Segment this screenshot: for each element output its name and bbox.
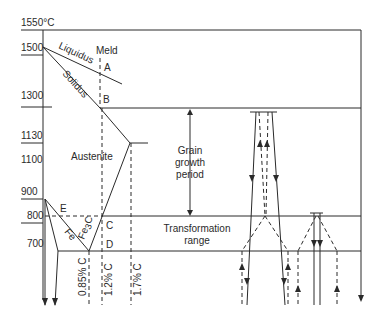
grain-growth-line3: period — [176, 169, 204, 180]
arrow-up-icon — [264, 140, 270, 147]
transformation-line2: range — [184, 235, 210, 246]
cycle1-down-right — [272, 112, 285, 305]
arrow-up-icon — [285, 263, 291, 270]
arrow-up-icon — [187, 109, 193, 115]
point-b-label: B — [103, 94, 110, 105]
arrow-down-icon — [187, 210, 193, 216]
arrow-down-icon — [358, 295, 364, 302]
cycle1-split-left — [242, 216, 265, 251]
transformation-line1: Transformation — [164, 223, 231, 234]
y-axis-top-label: 1550°C — [21, 17, 54, 28]
cycle2-split-left — [298, 216, 316, 251]
arrow-down-icon — [244, 278, 250, 285]
c085-label: 0.85% C — [77, 258, 88, 296]
grain-growth-line2: growth — [175, 157, 205, 168]
arrow-down-icon — [42, 298, 48, 306]
cycle1-up-left — [259, 112, 265, 216]
cooling-line-2 — [55, 251, 58, 305]
tick-label-1130: 1130 — [21, 130, 43, 141]
arrow-up-icon — [257, 140, 263, 147]
c17-label: 1.7% C — [132, 263, 143, 296]
tick-label-700: 700 — [27, 238, 44, 249]
arrow-down-icon — [249, 175, 255, 182]
cycle2-split-right — [318, 216, 337, 251]
point-c-label: C — [106, 220, 113, 231]
tick-label-1100: 1100 — [21, 154, 43, 165]
solidus-label: Solidus — [61, 68, 91, 100]
liquidus-label: Liquidus — [57, 40, 95, 66]
grain-growth-line1: Grain — [178, 145, 202, 156]
arrow-down-icon — [317, 240, 323, 247]
iron-carbon-diagram: 1550°C 1500 1300 1130 1100 900 800 700 L… — [0, 0, 383, 317]
fe3c-label: Fe3C — [76, 214, 97, 241]
arrow-down-icon — [281, 278, 287, 285]
tick-label-900: 900 — [21, 186, 38, 197]
cycle1-split-right — [265, 216, 288, 251]
point-e-label: E — [60, 203, 67, 214]
cycle1-down-left — [247, 112, 256, 305]
arrow-up-icon — [334, 285, 340, 292]
arrow-up-icon — [239, 263, 245, 270]
solidus-extension — [100, 108, 130, 143]
arrow-down-icon — [311, 240, 317, 247]
austenite-label: Austenite — [71, 151, 113, 162]
meld-label: Meld — [96, 45, 118, 56]
arrow-up-icon — [295, 285, 301, 292]
c12-label: 1.2% C — [103, 263, 114, 296]
cycle1-up-right — [266, 112, 268, 216]
arrow-down-icon — [273, 175, 279, 182]
point-a-label: A — [104, 62, 111, 73]
tick-label-800: 800 — [27, 210, 44, 221]
point-d-label: D — [106, 239, 113, 250]
tick-label-1500: 1500 — [21, 42, 44, 53]
tick-label-1300: 1300 — [21, 90, 44, 101]
arrow-down-icon — [52, 298, 58, 306]
